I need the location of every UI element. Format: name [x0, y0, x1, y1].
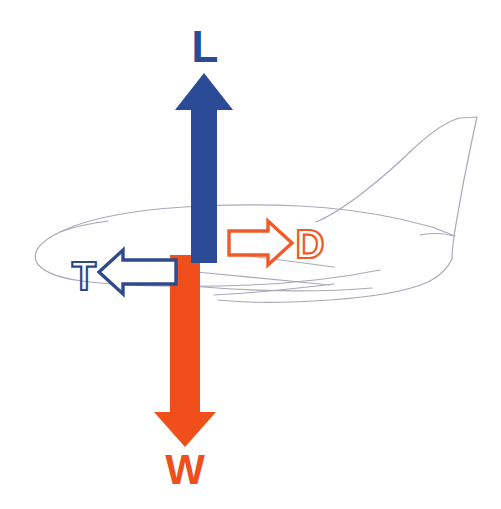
- horizontal-stabilizer-upper: [420, 234, 452, 236]
- lift-force-arrow: [175, 73, 233, 263]
- thrust-label: T: [72, 254, 96, 298]
- tail-cone: [218, 259, 452, 302]
- thrust-force-arrow: [99, 250, 176, 294]
- thrust-arrow-shape: [99, 250, 176, 294]
- weight-label: W: [165, 446, 205, 493]
- lift-arrow-shape: [175, 73, 233, 263]
- drag-label: D: [296, 222, 325, 266]
- vertical-stabilizer: [316, 117, 477, 259]
- forces-diagram-canvas: L W T D: [0, 0, 501, 509]
- drag-force-arrow: [229, 221, 292, 265]
- four-forces-of-flight-diagram: L W T D: [0, 0, 501, 509]
- lift-label: L: [192, 22, 219, 71]
- drag-arrow-shape: [229, 221, 292, 265]
- wing-near: [196, 272, 334, 295]
